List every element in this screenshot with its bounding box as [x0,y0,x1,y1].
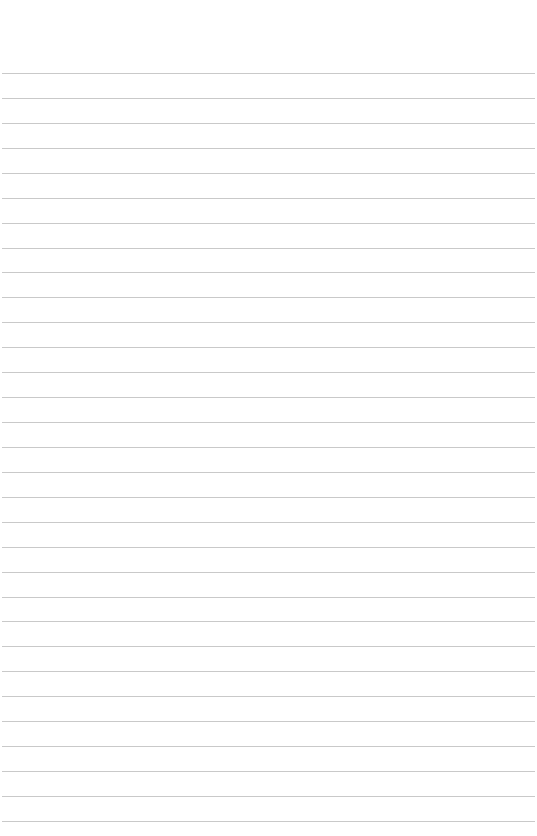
ruled-line [2,447,535,448]
ruled-line [2,522,535,523]
ruled-line [2,597,535,598]
ruled-line [2,297,535,298]
ruled-line [2,422,535,423]
ruled-line [2,796,535,797]
ruled-line [2,547,535,548]
ruled-line [2,721,535,722]
ruled-line [2,746,535,747]
ruled-line [2,248,535,249]
ruled-line [2,322,535,323]
ruled-line [2,173,535,174]
lined-paper-page [0,0,537,836]
ruled-line [2,696,535,697]
ruled-line [2,472,535,473]
ruled-line [2,347,535,348]
ruled-line [2,73,535,74]
ruled-line [2,646,535,647]
ruled-line [2,123,535,124]
ruled-line [2,497,535,498]
ruled-line [2,198,535,199]
ruled-line [2,821,535,822]
ruled-line [2,572,535,573]
ruled-line [2,223,535,224]
ruled-line [2,771,535,772]
ruled-line [2,272,535,273]
ruled-line [2,671,535,672]
ruled-line [2,148,535,149]
ruled-line [2,621,535,622]
ruled-line [2,98,535,99]
ruled-line [2,397,535,398]
ruled-line [2,372,535,373]
